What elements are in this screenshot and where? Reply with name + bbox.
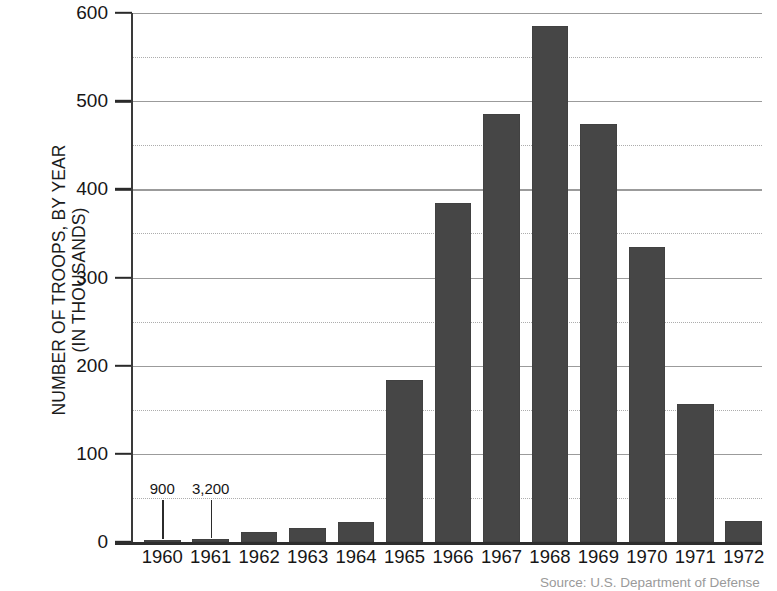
x-axis-line (115, 542, 762, 545)
x-axis-tick-label: 1963 (287, 546, 328, 568)
x-axis-tick-labels: 1960196119621963196419651966196719681969… (132, 546, 762, 572)
plot-area: 9003,200 (132, 13, 762, 542)
y-axis-tick (115, 276, 132, 278)
bar-value-annotation: 3,200 (192, 480, 230, 497)
y-axis-tick-label: 100 (46, 443, 108, 465)
y-axis-tick (115, 100, 132, 102)
troop-levels-bar-chart: NUMBER OF TROOPS, BY YEAR (IN THOUSANDS)… (0, 0, 777, 591)
y-axis-tick-label: 400 (46, 178, 108, 200)
bar (338, 522, 375, 542)
x-axis-tick-label: 1972 (723, 546, 764, 568)
bar (289, 528, 326, 542)
y-axis-tick (115, 364, 132, 366)
y-axis-tick-label: 200 (46, 355, 108, 377)
bar (677, 404, 714, 542)
annotation-leader-line (162, 500, 163, 539)
y-axis-tick-label: 0 (46, 531, 108, 553)
x-axis-tick-label: 1962 (239, 546, 280, 568)
x-axis-tick-label: 1968 (529, 546, 570, 568)
y-axis-tick (115, 12, 132, 14)
y-axis-tick-label: 500 (46, 90, 108, 112)
x-axis-tick-label: 1966 (432, 546, 473, 568)
bar (483, 114, 520, 542)
x-axis-tick-label: 1960 (142, 546, 183, 568)
bar (725, 521, 762, 542)
bar (144, 540, 181, 542)
x-axis-tick-label: 1964 (335, 546, 376, 568)
bars (132, 13, 762, 542)
x-axis-tick-label: 1971 (675, 546, 716, 568)
x-axis-tick-label: 1970 (626, 546, 667, 568)
source-note: Source: U.S. Department of Defense (540, 575, 760, 591)
y-axis-tick-label: 600 (46, 2, 108, 24)
y-axis-tick-label: 300 (46, 267, 108, 289)
x-axis-tick-label: 1967 (481, 546, 522, 568)
bar (580, 124, 617, 542)
bar (532, 26, 569, 542)
y-axis-tick (115, 188, 132, 190)
x-axis-tick-label: 1961 (190, 546, 231, 568)
bar (386, 380, 423, 542)
bar (629, 247, 666, 542)
bar (192, 539, 229, 542)
bar-value-annotation: 900 (150, 480, 175, 497)
x-axis-tick-label: 1965 (384, 546, 425, 568)
x-axis-tick-label: 1969 (578, 546, 619, 568)
y-axis-tick-labels: 0100200300400500600 (46, 13, 108, 542)
annotation-leader-line (211, 500, 212, 538)
bar (435, 203, 472, 542)
y-axis-tick (115, 453, 132, 455)
bar (241, 532, 278, 542)
